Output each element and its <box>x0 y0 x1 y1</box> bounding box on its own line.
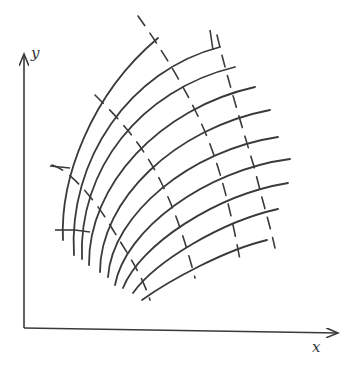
tick-mark <box>50 166 70 168</box>
dashed-trajectory-4 <box>217 35 275 248</box>
solid-curve-family <box>63 38 290 300</box>
orthogonal-trajectories-diagram <box>0 0 348 373</box>
x-axis-label: x <box>312 338 320 356</box>
solid-curve-8 <box>123 183 288 288</box>
tick-marks <box>50 30 213 232</box>
solid-curve-6 <box>108 137 278 277</box>
tick-mark <box>210 30 213 50</box>
x-axis <box>24 328 338 333</box>
axes <box>24 54 338 333</box>
tick-mark <box>75 230 90 232</box>
dashed-trajectory-2 <box>95 95 195 278</box>
y-axis-label: y <box>31 44 39 62</box>
solid-curve-10 <box>142 240 267 300</box>
